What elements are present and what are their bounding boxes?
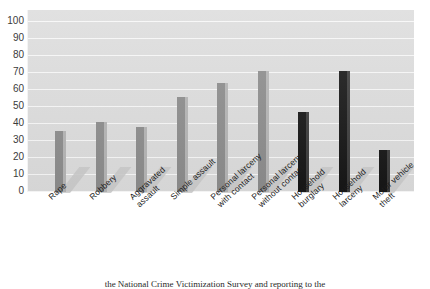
y-axis-tick-50: 50 (0, 101, 24, 111)
bar-side (266, 71, 269, 192)
bar-side (347, 71, 350, 192)
figure-caption: the National Crime Victimization Survey … (0, 279, 430, 289)
bar-slot (46, 10, 80, 192)
y-axis-tick-40: 40 (0, 118, 24, 128)
y-axis-tick-90: 90 (0, 33, 24, 43)
y-axis-tick-60: 60 (0, 84, 24, 94)
y-axis-tick-0: 0 (0, 186, 24, 196)
x-axis-category-labels: RapeRobberyAggravated assaultSimple assa… (27, 193, 414, 271)
y-axis-tick-30: 30 (0, 135, 24, 145)
bar-face (217, 83, 228, 192)
y-axis-tick-100: 100 (0, 16, 24, 26)
y-axis-tick-70: 70 (0, 67, 24, 77)
y-axis-tick-20: 20 (0, 152, 24, 162)
bar-personal-larceny-with-contact (217, 83, 228, 192)
y-axis-tick-80: 80 (0, 50, 24, 60)
bar-front (217, 83, 225, 192)
y-axis-tick-10: 10 (0, 169, 24, 179)
